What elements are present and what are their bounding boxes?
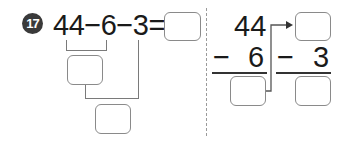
- vertical-carry-box[interactable]: [295, 12, 331, 41]
- vertical-rule-2: [276, 72, 331, 74]
- vertical-minus-sign-2: −: [277, 42, 294, 72]
- vertical-subtrahend-2: 3: [313, 42, 329, 72]
- vertical-answer-box-2[interactable]: [295, 76, 331, 106]
